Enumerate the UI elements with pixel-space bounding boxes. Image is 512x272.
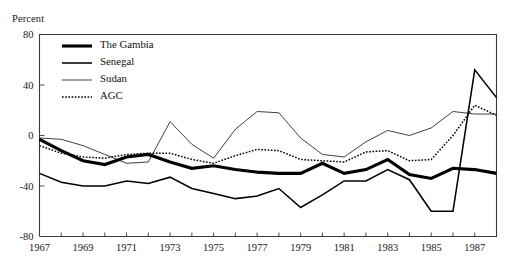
y-tick-label: 80: [23, 29, 34, 40]
legend-label-sudan: Sudan: [100, 72, 128, 84]
y-tick-label: 0: [28, 130, 33, 141]
series-line-the-gambia: [40, 139, 497, 178]
y-tick-label: -80: [20, 231, 34, 242]
figure-container: Figure 3. Real Exchange Rate Depreciatio…: [0, 0, 512, 272]
line-chart: 80400-40-80 1967196919711973197519771979…: [0, 0, 512, 272]
y-tick-label: 40: [23, 80, 34, 91]
x-tick-label: 1987: [464, 242, 485, 253]
x-tick-label: 1981: [334, 242, 355, 253]
y-axis-label: Percent: [12, 13, 44, 24]
legend-label-senegal: Senegal: [100, 55, 134, 67]
legend-label-the-gambia: The Gambia: [100, 38, 154, 50]
x-tick-label: 1975: [203, 242, 224, 253]
y-tick-label: -40: [20, 181, 34, 192]
x-tick-label: 1977: [247, 242, 268, 253]
y-tick-group: 80400-40-80: [20, 29, 45, 242]
chart-legend: The GambiaSenegalSudanAGC: [62, 38, 154, 101]
x-tick-label: 1985: [421, 242, 442, 253]
legend-label-agc: AGC: [100, 89, 123, 101]
x-tick-group: 1967196919711973197519771979198119831985…: [29, 233, 485, 253]
x-tick-label: 1973: [160, 242, 181, 253]
x-tick-label: 1967: [29, 242, 50, 253]
x-tick-label: 1983: [377, 242, 398, 253]
x-tick-label: 1971: [116, 242, 137, 253]
x-tick-label: 1979: [290, 242, 311, 253]
series-line-agc: [40, 105, 497, 163]
series-line-sudan: [40, 112, 497, 164]
x-tick-label: 1969: [73, 242, 94, 253]
